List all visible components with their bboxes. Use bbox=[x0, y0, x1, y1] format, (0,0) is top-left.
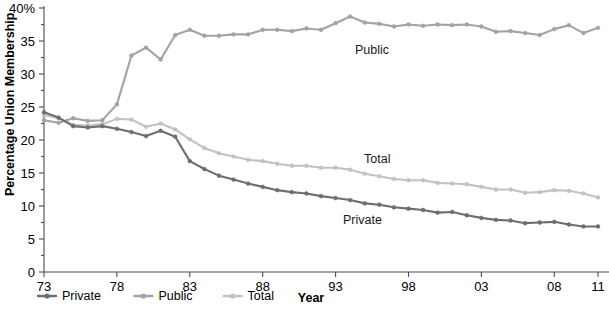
data-point bbox=[392, 205, 396, 209]
data-point bbox=[100, 124, 104, 128]
chart-legend: PrivatePublicTotal bbox=[38, 289, 274, 303]
data-point bbox=[290, 164, 294, 168]
x-tick-label: 08 bbox=[547, 279, 561, 294]
legend-item-public[interactable]: Public bbox=[134, 289, 192, 303]
data-point bbox=[567, 23, 571, 27]
data-point bbox=[71, 124, 75, 128]
data-point bbox=[479, 185, 483, 189]
data-point bbox=[261, 159, 265, 163]
data-point bbox=[392, 25, 396, 29]
data-point bbox=[130, 130, 134, 134]
data-point bbox=[319, 166, 323, 170]
data-point bbox=[436, 211, 440, 215]
inline-label-public: Public bbox=[355, 43, 389, 57]
y-tick-label: 25 bbox=[21, 100, 35, 115]
data-point bbox=[144, 134, 148, 138]
data-point bbox=[86, 119, 90, 123]
data-point bbox=[465, 23, 469, 27]
y-axis-title: Percentage Union Membership bbox=[3, 12, 17, 196]
x-tick-label: 11 bbox=[591, 279, 605, 294]
series-total bbox=[42, 113, 600, 199]
legend-label: Total bbox=[248, 289, 274, 303]
data-point bbox=[523, 221, 527, 225]
data-point bbox=[377, 203, 381, 207]
data-point bbox=[523, 191, 527, 195]
data-point bbox=[348, 198, 352, 202]
series-group bbox=[42, 15, 600, 229]
data-point bbox=[115, 127, 119, 131]
data-point bbox=[436, 23, 440, 27]
x-tick-label: 03 bbox=[474, 279, 488, 294]
data-point bbox=[130, 118, 134, 122]
data-point bbox=[552, 188, 556, 192]
data-point bbox=[509, 219, 513, 223]
data-point bbox=[567, 189, 571, 193]
data-point bbox=[465, 182, 469, 186]
series-line-total bbox=[44, 115, 598, 198]
legend-swatch-marker bbox=[44, 293, 49, 298]
data-point bbox=[421, 208, 425, 212]
data-point bbox=[202, 146, 206, 150]
data-point bbox=[319, 194, 323, 198]
data-point bbox=[407, 178, 411, 182]
data-point bbox=[421, 24, 425, 28]
data-point bbox=[275, 28, 279, 32]
data-point bbox=[144, 125, 148, 129]
data-point bbox=[305, 192, 309, 196]
data-point bbox=[596, 196, 600, 200]
data-point bbox=[363, 172, 367, 176]
series-public bbox=[42, 15, 600, 125]
data-point bbox=[232, 155, 236, 159]
legend-label: Public bbox=[158, 289, 192, 303]
data-point bbox=[217, 34, 221, 38]
data-point bbox=[582, 225, 586, 229]
data-point bbox=[479, 216, 483, 220]
data-point bbox=[407, 23, 411, 27]
data-point bbox=[552, 27, 556, 31]
legend-label: Private bbox=[62, 289, 101, 303]
line-chart: 40%35302520151050 737883889398030811 Pub… bbox=[0, 0, 609, 316]
data-point bbox=[348, 15, 352, 19]
data-point bbox=[450, 182, 454, 186]
data-point bbox=[582, 31, 586, 35]
data-point bbox=[509, 29, 513, 33]
data-point bbox=[538, 33, 542, 37]
chart-container: 40%35302520151050 737883889398030811 Pub… bbox=[0, 0, 609, 316]
data-point bbox=[377, 174, 381, 178]
data-point bbox=[465, 213, 469, 217]
data-point bbox=[115, 117, 119, 121]
data-point bbox=[421, 178, 425, 182]
legend-item-total[interactable]: Total bbox=[224, 289, 274, 303]
data-point bbox=[290, 190, 294, 194]
x-tick-label: 73 bbox=[37, 279, 51, 294]
data-point bbox=[86, 126, 90, 130]
data-point bbox=[100, 118, 104, 122]
y-tick-label: 35 bbox=[21, 34, 35, 49]
data-point bbox=[115, 102, 119, 106]
data-point bbox=[173, 33, 177, 37]
data-point bbox=[582, 192, 586, 196]
data-point bbox=[159, 58, 163, 62]
data-point bbox=[305, 27, 309, 31]
x-tick-label: 93 bbox=[328, 279, 342, 294]
data-point bbox=[363, 21, 367, 25]
data-point bbox=[57, 116, 61, 120]
data-point bbox=[42, 110, 46, 114]
data-point bbox=[202, 34, 206, 38]
data-point bbox=[130, 54, 134, 58]
y-tick-label: 30 bbox=[21, 67, 35, 82]
y-tick-label: 20 bbox=[21, 133, 35, 148]
x-axis-title: Year bbox=[298, 291, 325, 305]
legend-swatch-marker bbox=[141, 293, 146, 298]
series-line-public bbox=[44, 17, 598, 123]
data-point bbox=[159, 122, 163, 126]
data-point bbox=[261, 28, 265, 32]
data-point bbox=[479, 25, 483, 29]
data-point bbox=[173, 128, 177, 132]
data-point bbox=[261, 185, 265, 189]
data-point bbox=[334, 166, 338, 170]
inline-label-total: Total bbox=[364, 152, 390, 166]
data-point bbox=[334, 21, 338, 25]
data-point bbox=[42, 118, 46, 122]
data-point bbox=[436, 181, 440, 185]
